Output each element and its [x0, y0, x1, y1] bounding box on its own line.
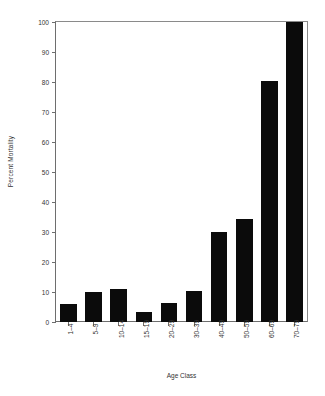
bar-slot — [136, 22, 153, 322]
x-axis-tick-label: 20–29 — [169, 320, 176, 338]
bar — [211, 232, 228, 322]
x-axis-tick-label: 30–39 — [194, 320, 201, 338]
y-axis-tick-label: 40 — [42, 199, 52, 206]
bar-series — [56, 22, 307, 322]
x-axis-tick-label: 10–14 — [119, 320, 126, 338]
y-axis-title-text: Percent Mortality — [8, 135, 15, 186]
bar — [110, 289, 127, 322]
y-axis-title: Percent Mortality — [4, 0, 18, 322]
y-axis-tick-label: 90 — [42, 49, 52, 56]
y-axis-tick-label: 10 — [42, 289, 52, 296]
bar — [60, 304, 77, 322]
x-axis-title: Age Class — [55, 372, 308, 379]
x-axis-tick-label: 1–4 — [69, 324, 76, 335]
bar — [236, 219, 253, 323]
bar — [261, 81, 278, 323]
bar — [85, 292, 102, 322]
bar-slot — [161, 22, 178, 322]
bar-slot — [211, 22, 228, 322]
chart-figure: Percent Mortality 0102030405060708090100… — [0, 0, 325, 396]
x-axis-tick-label: 60–69 — [269, 320, 276, 338]
y-axis-tick-label: 30 — [42, 229, 52, 236]
y-axis-tick-label: 70 — [42, 109, 52, 116]
bar-slot — [85, 22, 102, 322]
x-axis-tick-label: 5–9 — [94, 324, 101, 335]
bar — [286, 22, 303, 322]
y-axis-ticks: 0102030405060708090100 — [0, 0, 56, 396]
bar-slot — [110, 22, 127, 322]
y-axis-tick-label: 80 — [42, 79, 52, 86]
y-axis-tick-label: 60 — [42, 139, 52, 146]
bar — [186, 291, 203, 323]
bar-slot — [186, 22, 203, 322]
x-axis-tick-label: 70–79 — [294, 320, 301, 338]
x-axis-tick-label: 50–59 — [244, 320, 251, 338]
bar-slot — [286, 22, 303, 322]
bar-slot — [60, 22, 77, 322]
x-axis-tick-label: 15–19 — [144, 320, 151, 338]
y-axis-tick-label: 50 — [42, 169, 52, 176]
y-axis-tick-label: 20 — [42, 259, 52, 266]
bar-slot — [261, 22, 278, 322]
x-axis-tick-label: 40–49 — [219, 320, 226, 338]
y-axis-tick-label: 100 — [38, 19, 52, 26]
bar-slot — [236, 22, 253, 322]
y-axis-tick-label: 0 — [45, 319, 52, 326]
